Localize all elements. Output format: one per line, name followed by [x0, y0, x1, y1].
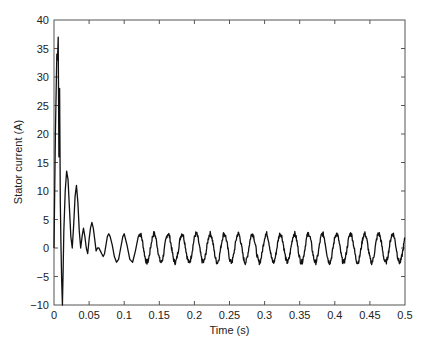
y-tick-label: 5	[43, 214, 49, 226]
y-tick-label: 40	[37, 14, 49, 26]
y-tick-label: 35	[37, 43, 49, 55]
y-tick-label: 30	[37, 71, 49, 83]
x-tick-label: 0.45	[359, 309, 380, 321]
y-tick-label: 10	[37, 185, 49, 197]
y-axis-label: Stator current (A)	[12, 120, 24, 204]
x-axis-label: Time (s)	[210, 324, 250, 336]
y-tick-label: −10	[30, 299, 49, 311]
y-tick-label: 0	[43, 242, 49, 254]
plot-frame	[54, 20, 405, 305]
y-tick-label: −5	[36, 271, 49, 283]
line-chart: 00.050.10.150.20.250.30.350.40.450.5 −10…	[0, 0, 424, 348]
x-tick-label: 0.5	[397, 309, 412, 321]
x-tick-label: 0.35	[289, 309, 310, 321]
y-tick-label: 25	[37, 100, 49, 112]
x-tick-label: 0.15	[149, 309, 170, 321]
y-tick-label: 15	[37, 157, 49, 169]
x-tick-label: 0.3	[257, 309, 272, 321]
y-tick-label: 20	[37, 128, 49, 140]
x-tick-label: 0	[51, 309, 57, 321]
x-tick-label: 0.2	[187, 309, 202, 321]
x-tick-label: 0.25	[219, 309, 240, 321]
x-tick-label: 0.1	[117, 309, 132, 321]
x-tick-label: 0.05	[78, 309, 99, 321]
x-tick-label: 0.4	[327, 309, 342, 321]
